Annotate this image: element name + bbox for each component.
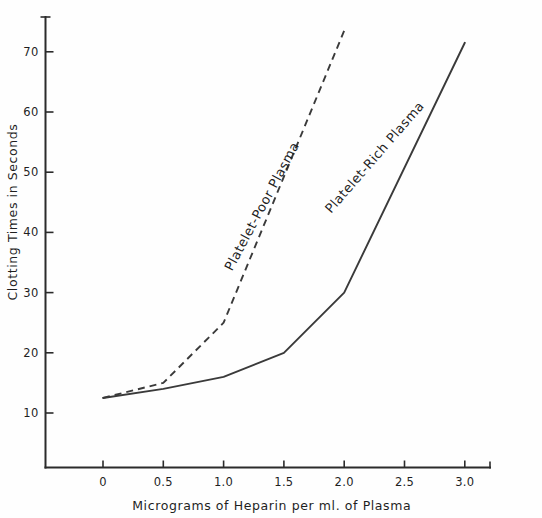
- series-line-platelet-poor: [103, 31, 344, 398]
- series-annotation-label: Platelet-Rich Plasma: [322, 98, 427, 216]
- x-axis-tick-label: 0: [99, 475, 107, 489]
- x-axis-title: Micrograms of Heparin per ml. of Plasma: [132, 498, 411, 513]
- series-line-platelet-rich: [103, 43, 465, 398]
- axes-group: [41, 17, 491, 469]
- data-series-group: [103, 31, 465, 398]
- clotting-time-chart-figure: 1020304050607000.51.01.52.02.53.0 Platel…: [0, 0, 542, 518]
- y-axis-tick-label: 70: [23, 45, 38, 59]
- y-axis-tick-label: 10: [23, 406, 38, 420]
- chart-plot-area: 1020304050607000.51.01.52.02.53.0 Platel…: [0, 0, 542, 518]
- y-axis-tick-label: 30: [23, 286, 38, 300]
- x-axis-tick-label: 0.5: [154, 475, 173, 489]
- x-axis-tick-label: 3.0: [455, 475, 474, 489]
- y-axis-tick-label: 20: [23, 346, 38, 360]
- x-axis-tick-label: 2.0: [335, 475, 354, 489]
- y-axis-tick-label: 40: [23, 225, 38, 239]
- x-axis-tick-label: 1.5: [274, 475, 293, 489]
- x-axis-tick-label: 2.5: [395, 475, 414, 489]
- x-axis-tick-label: 1.0: [214, 475, 233, 489]
- series-annotation-label: Platelet-Poor Plasma: [222, 139, 303, 273]
- y-axis-tick-label: 60: [23, 105, 38, 119]
- y-axis-tick-label: 50: [23, 165, 38, 179]
- y-axis-title: Clotting Times in Seconds: [5, 124, 20, 301]
